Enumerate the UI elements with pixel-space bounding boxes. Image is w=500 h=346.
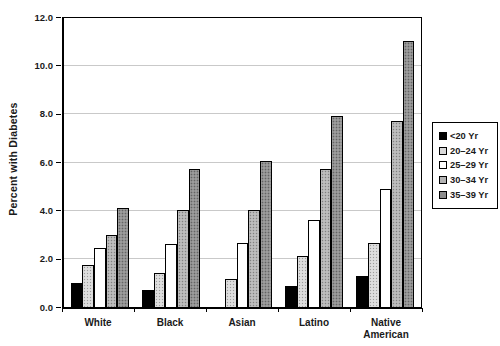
- x-tick-mark: [134, 308, 135, 312]
- legend-swatch: [439, 191, 447, 199]
- legend-label: 25–29 Yr: [450, 160, 488, 170]
- legend-item: <20 Yr: [439, 129, 494, 144]
- bar: [225, 279, 237, 307]
- legend-label: 30–34 Yr: [450, 175, 488, 185]
- y-tick-label: 8.0: [13, 108, 53, 119]
- y-tick-mark: [56, 210, 61, 211]
- y-tick-label: 12.0: [13, 12, 53, 23]
- y-tick-mark: [56, 259, 61, 260]
- y-tick-label: 0.0: [13, 302, 53, 313]
- y-tick-label: 6.0: [13, 157, 53, 168]
- x-tick-mark: [278, 308, 279, 312]
- x-tick-mark: [62, 308, 63, 312]
- bar: [189, 169, 201, 307]
- legend-item: 35–39 Yr: [439, 187, 494, 202]
- bar-group-latino: [278, 18, 349, 307]
- bars-layer: [64, 18, 421, 307]
- y-tick-label: 4.0: [13, 205, 53, 216]
- x-category-label: Asian: [206, 317, 278, 341]
- bar: [237, 243, 249, 307]
- bar: [165, 244, 177, 307]
- legend-label: 35–39 Yr: [450, 190, 488, 200]
- bar: [356, 276, 368, 307]
- legend-item: 30–34 Yr: [439, 173, 494, 188]
- y-tick-mark: [56, 65, 61, 66]
- y-tick-label: 10.0: [13, 60, 53, 71]
- bar: [308, 220, 320, 307]
- legend-swatch: [439, 132, 447, 140]
- category-labels: WhiteBlackAsianLatinoNative American: [62, 317, 422, 341]
- bar: [380, 189, 392, 307]
- x-tick-mark: [206, 308, 207, 312]
- bar: [368, 243, 380, 307]
- bar-group-asian: [207, 18, 278, 307]
- y-tick-mark: [56, 114, 61, 115]
- bar: [403, 41, 415, 307]
- legend-label: <20 Yr: [450, 131, 478, 141]
- y-tick-label: 2.0: [13, 253, 53, 264]
- bar: [117, 208, 129, 307]
- bar-group-white: [64, 18, 135, 307]
- bar-group-black: [135, 18, 206, 307]
- legend-swatch: [439, 161, 447, 169]
- bar: [71, 283, 83, 307]
- bar: [82, 265, 94, 307]
- x-category-label: Latino: [278, 317, 350, 341]
- diabetes-bar-chart: Percent with Diabetes 0.02.04.06.08.010.…: [0, 0, 500, 346]
- legend-swatch: [439, 176, 447, 184]
- bar: [154, 273, 166, 307]
- bar: [320, 169, 332, 307]
- x-category-label: Black: [134, 317, 206, 341]
- y-tick-mark: [56, 307, 61, 308]
- x-tick-mark: [422, 308, 423, 312]
- legend: <20 Yr20–24 Yr25–29 Yr30–34 Yr35–39 Yr: [432, 122, 498, 209]
- bar: [260, 161, 272, 307]
- x-category-label: White: [62, 317, 134, 341]
- bar: [331, 116, 343, 307]
- bar: [142, 290, 154, 307]
- legend-swatch: [439, 147, 447, 155]
- y-tick-mark: [56, 17, 61, 18]
- bar: [285, 286, 297, 307]
- y-tick-mark: [56, 162, 61, 163]
- legend-label: 20–24 Yr: [450, 146, 488, 156]
- bar: [106, 235, 118, 308]
- x-category-label: Native American: [350, 317, 422, 341]
- bar-group-native-american: [350, 18, 421, 307]
- plot-area: [62, 17, 422, 309]
- bar: [248, 210, 260, 307]
- bar: [94, 248, 106, 307]
- x-tick-mark: [350, 308, 351, 312]
- bar: [391, 121, 403, 307]
- bar: [297, 256, 309, 307]
- bar: [177, 210, 189, 307]
- legend-item: 20–24 Yr: [439, 144, 494, 159]
- legend-item: 25–29 Yr: [439, 158, 494, 173]
